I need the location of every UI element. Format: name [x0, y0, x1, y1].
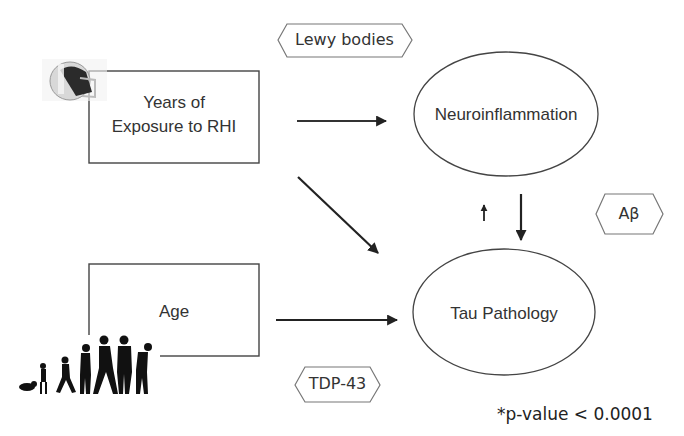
tdp43-label: TDP-43 [305, 374, 370, 393]
lewy-bodies-label: Lewy bodies [287, 30, 402, 49]
p-value-footnote: *p-value < 0.0001 [497, 404, 653, 424]
neuroinflammation-label: Neuroinflammation [414, 103, 598, 127]
human-aging-silhouettes-icon [19, 335, 160, 395]
diagram-canvas [0, 0, 684, 436]
age-label: Age [89, 300, 259, 324]
rhi-exposure-label-line1: Years of [89, 91, 259, 115]
abeta-label: Aβ [605, 204, 653, 223]
arrow-rhi-to-tau [298, 177, 378, 253]
tau-pathology-label: Tau Pathology [413, 302, 595, 326]
rhi-exposure-label-line2: Exposure to RHI [89, 115, 259, 139]
